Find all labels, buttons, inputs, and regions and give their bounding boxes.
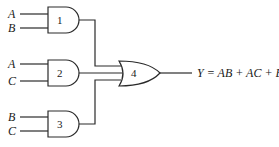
wire-g3-to-or [79, 80, 121, 124]
and-gate-1 [48, 7, 79, 33]
gate-1-label: 1 [57, 14, 63, 26]
or-gate-4 [119, 61, 160, 86]
input-label-g1-bottom: B [8, 21, 16, 35]
wire-g1-to-or [79, 20, 121, 66]
input-label-g2-bottom: C [8, 74, 17, 88]
input-label-g3-top: B [8, 110, 16, 124]
and-gate-3 [48, 111, 79, 137]
gate-2-label: 2 [57, 67, 63, 79]
logic-circuit-diagram: A B 1 A C 2 B C 3 4 Y = AB + AC + BC [0, 0, 279, 147]
output-equation: Y = AB + AC + BC [197, 66, 279, 80]
and-gate-2 [48, 60, 79, 86]
input-label-g2-top: A [7, 57, 16, 71]
gate-3-label: 3 [57, 118, 63, 130]
gate-4-label: 4 [131, 67, 137, 79]
input-label-g3-bottom: C [8, 124, 17, 138]
input-label-g1-top: A [7, 7, 16, 21]
